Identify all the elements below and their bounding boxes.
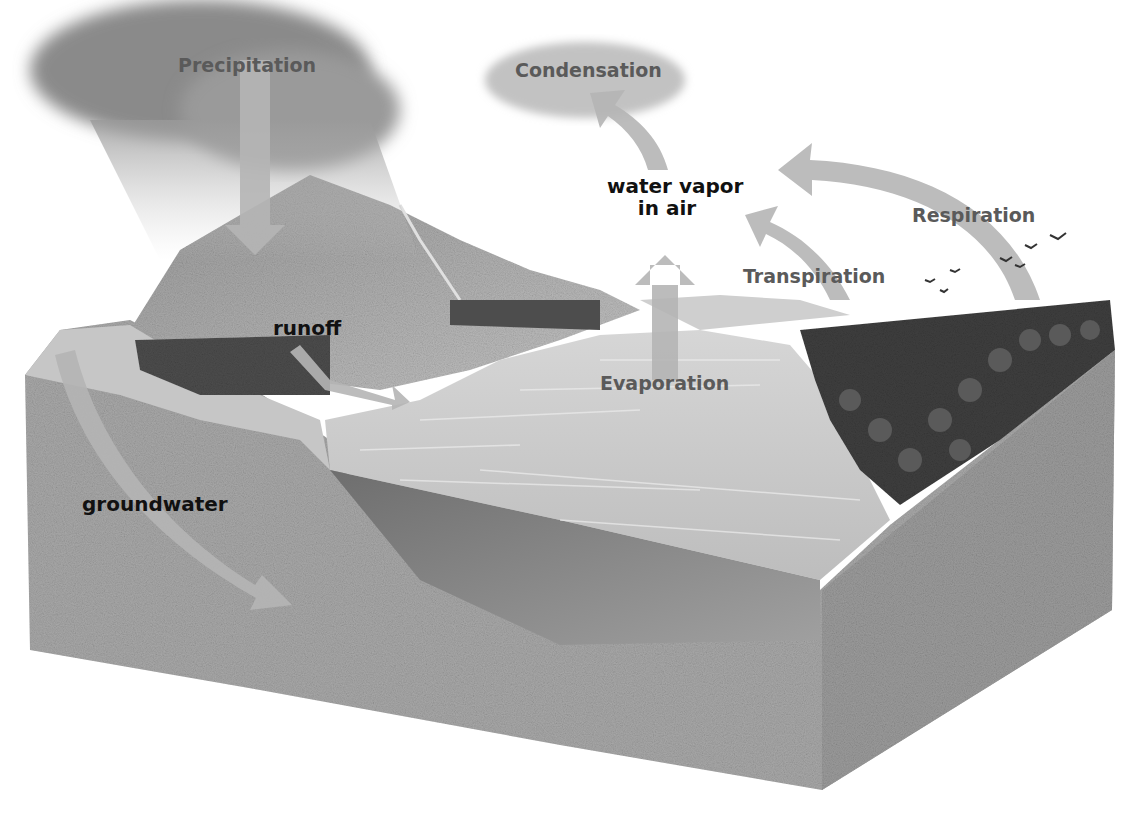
condensation-label: Condensation: [515, 60, 662, 81]
rain-cloud: [30, 0, 420, 260]
forest-far: [450, 300, 600, 330]
water-vapor-label: water vapor in air: [607, 175, 727, 219]
water-vapor-line2: in air: [607, 197, 727, 219]
water-cycle-illustration: [0, 0, 1135, 813]
precipitation-label: Precipitation: [178, 55, 316, 76]
runoff-label: runoff: [273, 317, 341, 339]
transpiration-label: Transpiration: [743, 266, 885, 287]
evaporation-label: Evaporation: [600, 373, 729, 394]
respiration-label: Respiration: [912, 205, 1035, 226]
water-vapor-line1: water vapor: [607, 175, 727, 197]
groundwater-label: groundwater: [82, 493, 228, 515]
